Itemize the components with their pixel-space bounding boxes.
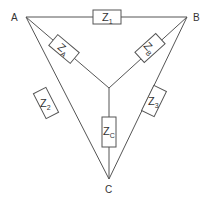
node-b-label: B: [193, 12, 200, 23]
node-c-label: C: [105, 184, 112, 195]
impedance-zb: ZB: [135, 33, 165, 62]
impedance-zc: ZC: [102, 117, 116, 147]
impedance-z3: Z3: [141, 85, 167, 117]
delta-star-diagram: Z1 ZA ZB Z2 Z3 ZC A B C: [0, 0, 210, 203]
impedance-z2: Z2: [32, 87, 59, 119]
impedance-z1: Z1: [93, 10, 121, 25]
impedance-za: ZA: [48, 35, 79, 64]
node-a-label: A: [11, 12, 18, 23]
